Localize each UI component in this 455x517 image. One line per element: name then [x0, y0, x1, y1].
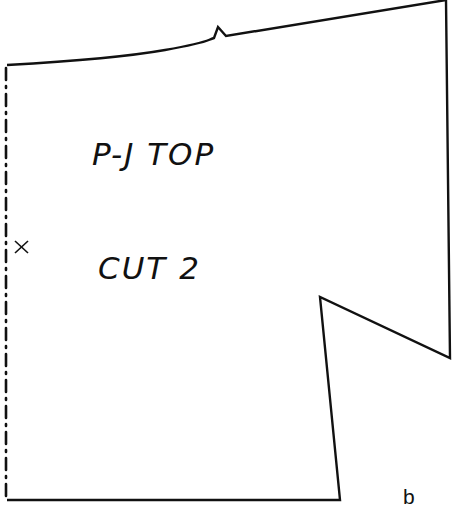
cut-instruction-label: CUT 2: [98, 250, 201, 286]
figure-label: b: [403, 485, 415, 508]
piece-name-label: P-J TOP: [92, 136, 215, 172]
pattern-outline: [7, 0, 450, 500]
pattern-diagram: P-J TOP CUT 2 b: [0, 0, 455, 517]
fold-mark-x-icon: [15, 241, 28, 253]
